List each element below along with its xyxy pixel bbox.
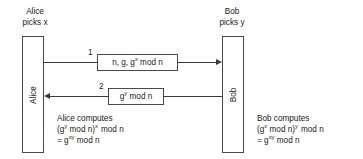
alice-compute-line2-mid: mod n) xyxy=(67,125,95,134)
alice-compute-line2-sup2: x xyxy=(95,123,98,129)
message-2-line-right xyxy=(164,96,222,97)
message-2-text-suffix: mod n xyxy=(127,92,152,101)
bob-compute-line3-suffix: mod n xyxy=(275,136,300,145)
alice-party-box: Alice xyxy=(22,36,44,153)
message-2-number: 2 xyxy=(99,82,104,91)
message-1-text-prefix: n, g, g xyxy=(112,58,135,67)
bob-compute-line3-prefix: = g xyxy=(257,136,269,145)
message-2-arrowhead-icon xyxy=(44,93,50,99)
bob-compute-line2-suffix: mod n xyxy=(301,125,324,134)
bob-compute-line2-sup2: y xyxy=(295,123,298,129)
message-2-line-left xyxy=(48,96,108,97)
message-1-line-right xyxy=(178,62,217,63)
message-1-line-left xyxy=(44,62,97,63)
message-2-box: gy mod n xyxy=(108,88,164,105)
bob-compute-line3: = gxy mod n xyxy=(257,136,324,147)
alice-compute-line3: = gxy mod n xyxy=(57,136,124,147)
alice-computation: Alice computes (gy mod n)xmod n = gxy mo… xyxy=(57,114,124,146)
alice-compute-line2-suffix: mod n xyxy=(101,125,124,134)
bob-party-box: Bob xyxy=(222,36,244,153)
alice-caption: Alice picks x xyxy=(0,7,70,28)
message-1-arrowhead-icon xyxy=(216,59,222,65)
diffie-hellman-diagram: Alice picks x Bob picks y Alice Bob 1 n,… xyxy=(0,0,363,159)
bob-compute-line2: (gx mod n)ymod n xyxy=(257,125,324,136)
bob-computation: Bob computes (gx mod n)ymod n = gxy mod … xyxy=(257,114,324,146)
alice-compute-line2: (gy mod n)xmod n xyxy=(57,125,124,136)
alice-compute-line3-prefix: = g xyxy=(57,136,69,145)
message-2-text: gy mod n xyxy=(120,92,153,101)
message-1-text-suffix: mod n xyxy=(138,58,163,67)
bob-caption-line2: picks y xyxy=(197,18,267,29)
message-1-box: n, g, gx mod n xyxy=(97,54,178,71)
bob-caption: Bob picks y xyxy=(197,7,267,28)
message-1-number: 1 xyxy=(88,48,93,57)
alice-caption-line1: Alice xyxy=(26,7,44,16)
alice-box-label: Alice xyxy=(29,86,38,104)
bob-compute-line2-mid: mod n) xyxy=(267,125,295,134)
message-1-text: n, g, gx mod n xyxy=(112,58,163,67)
bob-caption-line1: Bob xyxy=(225,7,240,16)
alice-caption-line2: picks x xyxy=(0,18,70,29)
alice-compute-line3-suffix: mod n xyxy=(75,136,100,145)
bob-box-label: Bob xyxy=(229,87,238,102)
